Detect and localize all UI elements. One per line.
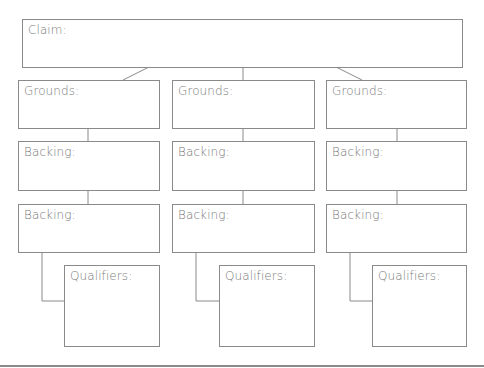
backing-box-1b[interactable]: Backing: (18, 204, 160, 253)
claim-box[interactable]: Claim: (22, 19, 463, 68)
grounds-box-1[interactable]: Grounds: (18, 80, 160, 129)
backing-label: Backing: (178, 208, 230, 222)
backing-box-2a[interactable]: Backing: (172, 141, 315, 191)
bottom-divider (0, 365, 484, 367)
qualifiers-label: Qualifiers: (225, 269, 287, 283)
qualifiers-label: Qualifiers: (378, 269, 440, 283)
backing-label: Backing: (332, 145, 384, 159)
claim-label: Claim: (28, 23, 67, 37)
qualifiers-label: Qualifiers: (70, 269, 132, 283)
backing-label: Backing: (332, 208, 384, 222)
backing-label: Backing: (24, 145, 76, 159)
backing-label: Backing: (178, 145, 230, 159)
backing-box-3b[interactable]: Backing: (326, 204, 467, 253)
backing-label: Backing: (24, 208, 76, 222)
qualifiers-box-2[interactable]: Qualifiers: (219, 265, 315, 347)
backing-box-3a[interactable]: Backing: (326, 141, 467, 191)
grounds-label: Grounds: (24, 84, 79, 98)
backing-box-1a[interactable]: Backing: (18, 141, 160, 191)
qualifiers-box-1[interactable]: Qualifiers: (64, 265, 160, 347)
grounds-label: Grounds: (332, 84, 387, 98)
backing-box-2b[interactable]: Backing: (172, 204, 315, 253)
grounds-box-3[interactable]: Grounds: (326, 80, 467, 129)
grounds-label: Grounds: (178, 84, 233, 98)
grounds-box-2[interactable]: Grounds: (172, 80, 315, 129)
qualifiers-box-3[interactable]: Qualifiers: (372, 265, 467, 347)
